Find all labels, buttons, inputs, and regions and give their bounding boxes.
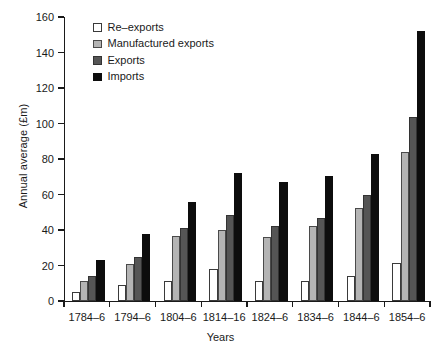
- y-axis-tick-label: 100: [28, 119, 54, 130]
- x-axis-tick: [109, 301, 110, 307]
- bar: [96, 260, 104, 301]
- bar: [118, 285, 126, 301]
- bar: [134, 257, 142, 301]
- y-axis-tick-label: 80: [28, 154, 54, 165]
- x-axis-tick-label: 1814–16: [203, 311, 246, 323]
- legend-label: Exports: [108, 55, 145, 66]
- bar: [255, 281, 263, 301]
- y-axis-tick-label: 60: [28, 190, 54, 201]
- bar: [409, 117, 417, 301]
- legend: Re–exportsManufactured exportsExportsImp…: [93, 19, 214, 85]
- bar: [325, 176, 333, 301]
- legend-swatch-icon: [93, 56, 102, 65]
- legend-item: Exports: [93, 52, 214, 69]
- x-axis-title: Years: [0, 331, 441, 343]
- x-axis-tick: [384, 301, 385, 307]
- bar: [301, 281, 309, 301]
- bar: [126, 264, 134, 301]
- bar: [317, 218, 325, 301]
- bar: [164, 281, 172, 301]
- x-axis-tick: [292, 301, 293, 307]
- y-axis-tick-label: 160: [28, 12, 54, 23]
- legend-item: Imports: [93, 69, 214, 86]
- x-axis-tick: [63, 301, 64, 307]
- x-axis-tick-label: 1834–6: [297, 311, 334, 323]
- bar-chart: Annual average (£m) 02040608010012014016…: [0, 0, 441, 353]
- y-axis-tick-label: 0: [28, 296, 54, 307]
- bar: [188, 202, 196, 301]
- y-axis-tick-label: 140: [28, 48, 54, 59]
- legend-swatch-icon: [93, 73, 102, 82]
- x-axis-tick-label: 1854–6: [389, 311, 426, 323]
- x-axis-tick-label: 1784–6: [69, 311, 106, 323]
- bar: [180, 228, 188, 301]
- bar: [209, 269, 217, 301]
- bar: [347, 276, 355, 301]
- bar: [371, 154, 379, 301]
- x-axis-tick-label: 1804–6: [160, 311, 197, 323]
- bar: [72, 292, 80, 301]
- bar: [417, 31, 425, 301]
- bar: [226, 215, 234, 301]
- x-axis-tick: [338, 301, 339, 307]
- legend-label: Re–exports: [108, 22, 164, 33]
- bar: [263, 237, 271, 301]
- bar: [309, 226, 317, 301]
- y-axis-tick-label: 120: [28, 83, 54, 94]
- legend-label: Manufactured exports: [108, 38, 214, 49]
- legend-item: Re–exports: [93, 19, 214, 36]
- y-axis-tick-label: 40: [28, 225, 54, 236]
- bar: [363, 195, 371, 302]
- legend-swatch-icon: [93, 40, 102, 49]
- bar: [392, 263, 400, 301]
- legend-item: Manufactured exports: [93, 36, 214, 53]
- legend-swatch-icon: [93, 23, 102, 32]
- bar: [218, 230, 226, 301]
- bar: [234, 173, 242, 301]
- x-axis-tick-label: 1844–6: [343, 311, 380, 323]
- x-axis-tick: [201, 301, 202, 307]
- y-axis-tick-label: 20: [28, 261, 54, 272]
- bar: [271, 226, 279, 301]
- bar: [80, 281, 88, 301]
- bar: [172, 236, 180, 301]
- x-axis-tick: [155, 301, 156, 307]
- bar: [142, 234, 150, 301]
- x-axis-tick: [429, 301, 430, 307]
- bar: [88, 276, 96, 301]
- legend-label: Imports: [108, 71, 145, 82]
- bar: [279, 182, 287, 301]
- bar: [355, 208, 363, 301]
- x-axis-tick-label: 1794–6: [114, 311, 151, 323]
- bar: [401, 152, 409, 301]
- x-axis-tick: [246, 301, 247, 307]
- x-axis-tick-label: 1824–6: [252, 311, 289, 323]
